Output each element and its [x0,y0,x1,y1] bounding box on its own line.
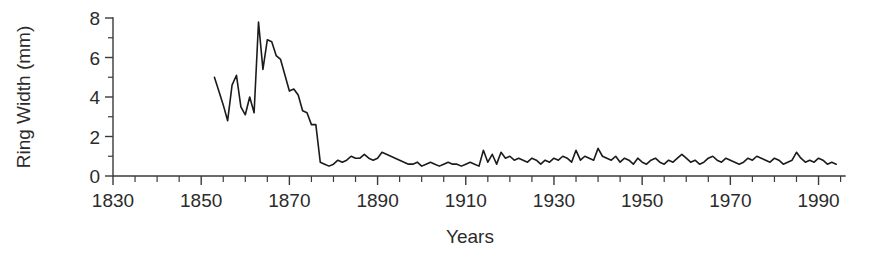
y-tick-label: 6 [89,48,100,69]
x-axis-label: Years [446,226,494,247]
x-tick-label: 1870 [268,190,310,211]
series-line-ring-width [214,22,836,166]
y-tick-label: 2 [89,127,100,148]
y-axis-label: Ring Width (mm) [13,26,34,169]
x-tick-label: 1950 [621,190,663,211]
x-tick-label: 1910 [445,190,487,211]
y-tick-label: 4 [89,87,100,108]
axes [113,18,845,176]
x-tick-label: 1850 [180,190,222,211]
line-chart: 0246818301850187018901910193019501970199… [0,0,888,263]
x-tick-label: 1830 [92,190,134,211]
x-tick-label: 1990 [797,190,839,211]
y-tick-label: 0 [89,166,100,187]
y-tick-label: 8 [89,8,100,29]
data-series [214,22,836,166]
chart-figure: 0246818301850187018901910193019501970199… [0,0,888,263]
x-tick-label: 1930 [533,190,575,211]
axis-tick-labels: 0246818301850187018901910193019501970199… [89,8,839,211]
x-tick-label: 1970 [709,190,751,211]
x-tick-label: 1890 [356,190,398,211]
